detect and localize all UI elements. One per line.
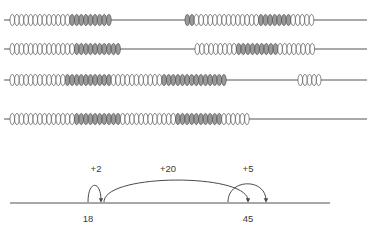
bead-white (15, 14, 20, 25)
bead-gray (194, 113, 199, 124)
bead-white (232, 43, 237, 54)
bead-gray (107, 14, 112, 25)
bead-white (42, 113, 47, 124)
bead-gray (70, 74, 75, 85)
bead-gray (268, 14, 273, 25)
bead-group (10, 74, 226, 85)
bead-white (51, 113, 56, 124)
bead-gray (116, 113, 121, 124)
bead-white (15, 74, 20, 85)
bead-white (316, 74, 321, 85)
bead-white (235, 113, 240, 124)
bead-white (42, 43, 47, 54)
jump-arc (228, 184, 266, 202)
bead-white (28, 43, 33, 54)
bead-gray (217, 113, 222, 124)
bead-gray (107, 113, 112, 124)
bead-white (130, 113, 135, 124)
bead-gray (286, 14, 291, 25)
bead-white (139, 74, 144, 85)
jump-label: +20 (160, 163, 176, 174)
bead-gray (93, 74, 98, 85)
bead-white (148, 113, 153, 124)
bead-white (19, 113, 24, 124)
bead-gray (97, 43, 102, 54)
bead-gray (88, 43, 93, 54)
bead-white (240, 113, 245, 124)
bead-white (15, 43, 20, 54)
bead-white (303, 74, 308, 85)
bead-gray (189, 74, 194, 85)
bead-white (203, 14, 208, 25)
bead-white (292, 43, 297, 54)
bead-white (254, 14, 259, 25)
bead-white (61, 74, 66, 85)
bead-white (10, 74, 15, 85)
bead-white (200, 43, 205, 54)
bead-gray (93, 113, 98, 124)
bead-white (162, 113, 167, 124)
bead-white (309, 14, 314, 25)
bead-gray (102, 43, 107, 54)
bead-white (213, 14, 218, 25)
bead-gray (241, 43, 246, 54)
bead-white (61, 113, 66, 124)
bead-gray (84, 43, 89, 54)
bead-white (148, 74, 153, 85)
bead-gray (88, 74, 93, 85)
bead-white (157, 113, 162, 124)
bead-white (143, 113, 148, 124)
bead-gray (70, 14, 75, 25)
bead-white (56, 43, 61, 54)
bead-gray (246, 43, 251, 54)
bead-white (157, 74, 162, 85)
bead-white (10, 43, 15, 54)
bead-white (195, 43, 200, 54)
bead-gray (176, 74, 181, 85)
bead-white (19, 74, 24, 85)
bead-gray (116, 43, 121, 54)
bead-white (226, 113, 231, 124)
bead-white (70, 113, 75, 124)
bead-gray (263, 14, 268, 25)
bead-gray (250, 43, 255, 54)
bead-white (33, 74, 38, 85)
bead-white (125, 74, 130, 85)
bead-gray (111, 43, 116, 54)
bead-gray (84, 14, 89, 25)
bead-white (245, 113, 250, 124)
bead-white (65, 113, 70, 124)
bead-gray (93, 43, 98, 54)
bead-white (300, 14, 305, 25)
bead-gray (97, 113, 102, 124)
worksheet-page: +2+20+51845 (0, 0, 371, 249)
tick-label-18: 18 (83, 213, 94, 224)
bead-gray (282, 14, 287, 25)
bead-white (38, 14, 43, 25)
bead-white (47, 43, 52, 54)
bead-gray (269, 43, 274, 54)
bead-gray (107, 43, 112, 54)
bead-gray (74, 113, 79, 124)
bead-white (226, 14, 231, 25)
bead-white (217, 14, 222, 25)
jump-arc (104, 180, 248, 202)
bead-white (24, 14, 29, 25)
jump-arc (88, 185, 101, 202)
bead-white (209, 43, 214, 54)
bead-gray (212, 74, 217, 85)
bead-white (227, 43, 232, 54)
bead-white (287, 43, 292, 54)
bead-white (143, 74, 148, 85)
bead-white (116, 74, 121, 85)
bead-white (153, 74, 158, 85)
bead-white (51, 43, 56, 54)
bead-white (296, 43, 301, 54)
bead-gray (185, 74, 190, 85)
bead-white (310, 43, 315, 54)
bead-gray (79, 43, 84, 54)
bead-white (125, 113, 130, 124)
bead-gray (217, 74, 222, 85)
bead-gray (189, 113, 194, 124)
bead-gray (180, 74, 185, 85)
